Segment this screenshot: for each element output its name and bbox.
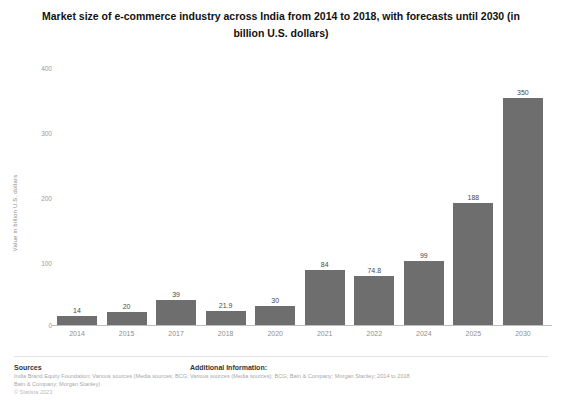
bar-value-label: 21.9 [219,302,233,309]
bar-value-label: 188 [468,194,480,201]
x-axis-labels: 2014 2015 2017 2018 2020 2021 2022 2024 … [57,330,543,337]
y-tick-100: 100 [20,260,52,267]
bar-rect[interactable] [305,270,345,325]
bar-value-label: 74.8 [367,267,381,274]
bar-rect[interactable] [354,276,394,325]
bar-rect[interactable] [57,316,97,325]
bar-rect[interactable] [453,203,493,325]
x-tick-2024: 2024 [404,330,444,337]
sources-text: India Brand Equity Foundation; Various s… [14,373,190,388]
y-tick-400: 400 [20,65,52,72]
additional-info-text: Various sources (Media sources); BCG; Ba… [190,373,548,381]
x-tick-2014: 2014 [57,330,97,337]
x-tick-2025: 2025 [453,330,493,337]
bar-rect[interactable] [404,261,444,325]
bar-value-label: 14 [73,307,81,314]
bar-value-label: 39 [172,291,180,298]
y-tick-0: 0 [20,322,52,329]
bar-column-2018: 21.9 [206,65,246,325]
x-tick-2022: 2022 [354,330,394,337]
bar-rect[interactable] [206,311,246,325]
x-tick-2021: 2021 [305,330,345,337]
bar-column-2022: 74.8 [354,65,394,325]
plot-area: Value in billion U.S. dollars 400 300 20… [0,60,562,345]
bar-value-label: 84 [321,261,329,268]
bar-value-label: 350 [517,89,529,96]
bar-rect[interactable] [156,300,196,325]
bar-rect[interactable] [503,98,543,326]
bar-rect[interactable] [255,306,295,326]
bar-value-label: 20 [123,303,131,310]
x-tick-2020: 2020 [255,330,295,337]
bar-column-2024: 99 [404,65,444,325]
x-axis-line [52,325,552,326]
bar-value-label: 99 [420,252,428,259]
additional-info-block: Additional Information: Various sources … [190,364,548,395]
x-tick-2017: 2017 [156,330,196,337]
y-axis-title: Value in billion U.S. dollars [12,128,18,298]
bar-column-2020: 30 [255,65,295,325]
bar-series: 14 20 39 21.9 30 84 74.8 99 [57,65,543,325]
bar-column-2014: 14 [57,65,97,325]
bar-column-2021: 84 [305,65,345,325]
x-tick-2018: 2018 [206,330,246,337]
sources-block: Sources India Brand Equity Foundation; V… [14,364,190,395]
copyright-text: © Statista 2023 [14,389,190,395]
footer: Sources India Brand Equity Foundation; V… [14,364,548,395]
bar-rect[interactable] [107,312,147,325]
x-tick-2030: 2030 [503,330,543,337]
y-tick-200: 200 [20,195,52,202]
bar-column-2025: 188 [453,65,493,325]
chart-title: Market size of e-commerce industry acros… [0,8,562,42]
x-tick-2015: 2015 [107,330,147,337]
footer-divider [14,356,548,357]
sources-heading: Sources [14,364,190,371]
bar-column-2015: 20 [107,65,147,325]
additional-info-heading: Additional Information: [190,364,548,371]
bar-column-2017: 39 [156,65,196,325]
bar-value-label: 30 [271,297,279,304]
y-tick-300: 300 [20,130,52,137]
bar-column-2030: 350 [503,65,543,325]
